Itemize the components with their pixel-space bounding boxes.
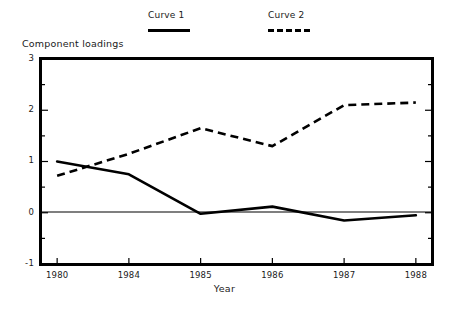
series-line-curve-2 [57,103,416,176]
plot-area [0,0,449,310]
plot-frame [41,59,433,265]
chart-figure: Curve 1 Curve 2 Component loadings 3 2 1… [0,0,449,310]
